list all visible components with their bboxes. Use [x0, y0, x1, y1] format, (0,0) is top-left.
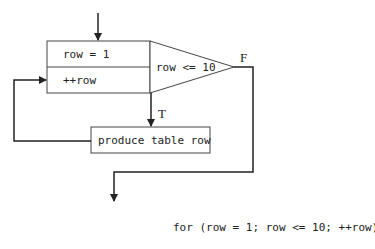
condition-triangle: row <= 10: [150, 41, 234, 93]
false-label: F: [240, 50, 247, 65]
increment-label: ++row: [63, 74, 96, 87]
loop-control-box: row = 1 ++row: [47, 41, 150, 93]
pseudocode-block: for (row = 1; row <= 10; ++row) produce …: [173, 188, 375, 249]
body-label: produce table row: [98, 134, 211, 147]
pseudocode-line: for (row = 1; row <= 10; ++row): [173, 220, 375, 236]
init-label: row = 1: [63, 48, 109, 61]
condition-label: row <= 10: [156, 61, 216, 74]
body-box: produce table row: [91, 127, 211, 153]
true-label: T: [158, 106, 166, 121]
